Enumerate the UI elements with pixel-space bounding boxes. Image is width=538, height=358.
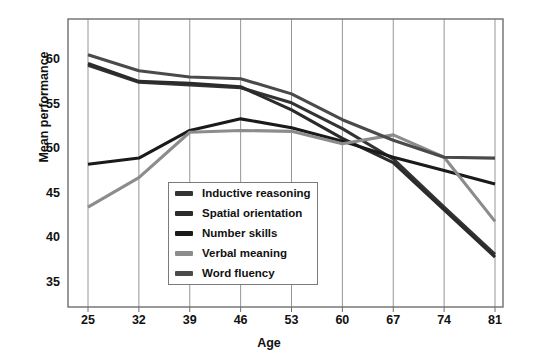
y-tick-label: 55 [20, 97, 60, 111]
line-chart: Mean performance Age 605550454035 253239… [0, 0, 538, 358]
legend-item[interactable]: Spatial orientation [169, 203, 317, 223]
legend-item-label: Word fluency [202, 267, 275, 279]
legend-color-swatch-icon [175, 251, 193, 256]
y-tick-label: 45 [20, 186, 60, 200]
legend: Inductive reasoningSpatial orientationNu… [168, 182, 318, 285]
y-tick-label: 40 [20, 230, 60, 244]
legend-item-label: Inductive reasoning [202, 187, 311, 199]
x-axis-label: Age [0, 336, 538, 350]
legend-color-swatch-icon [175, 231, 193, 236]
x-tick-label: 32 [119, 313, 159, 327]
y-tick-label: 35 [20, 275, 60, 289]
legend-item[interactable]: Word fluency [169, 263, 317, 283]
legend-color-swatch-icon [175, 191, 193, 196]
y-tick-label: 50 [20, 141, 60, 155]
legend-item-label: Number skills [202, 227, 277, 239]
legend-color-swatch-icon [175, 271, 193, 276]
legend-item[interactable]: Number skills [169, 223, 317, 243]
y-tick-label: 60 [20, 52, 60, 66]
legend-item[interactable]: Inductive reasoning [169, 183, 317, 203]
legend-item-label: Verbal meaning [202, 247, 287, 259]
legend-color-swatch-icon [175, 211, 193, 216]
x-tick-label: 60 [322, 313, 362, 327]
legend-item-label: Spatial orientation [202, 207, 302, 219]
x-tick-label: 46 [221, 313, 261, 327]
x-tick-label: 67 [373, 313, 413, 327]
x-tick-label: 53 [272, 313, 312, 327]
x-tick-label: 25 [68, 313, 108, 327]
x-tick-label: 81 [475, 313, 515, 327]
legend-item[interactable]: Verbal meaning [169, 243, 317, 263]
plot-area [0, 0, 538, 358]
x-tick-label: 39 [170, 313, 210, 327]
x-tick-label: 74 [424, 313, 464, 327]
